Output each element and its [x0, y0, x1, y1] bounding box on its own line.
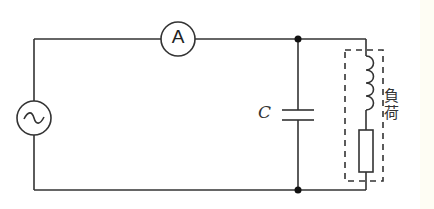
inductor-icon — [366, 56, 374, 110]
load-label-char-2: 荷 — [383, 105, 399, 122]
junction-dot-bottom — [295, 187, 302, 194]
ac-wave-icon — [24, 113, 44, 123]
resistor-icon — [359, 130, 373, 172]
load-boundary-box — [345, 50, 383, 181]
junction-dot-top — [295, 36, 302, 43]
load-label: 負 荷 — [383, 88, 399, 122]
ammeter-symbol: A — [169, 26, 187, 48]
circuit-diagram — [0, 0, 434, 209]
capacitor-label: C — [258, 102, 271, 122]
load-label-char-1: 負 — [383, 88, 399, 105]
